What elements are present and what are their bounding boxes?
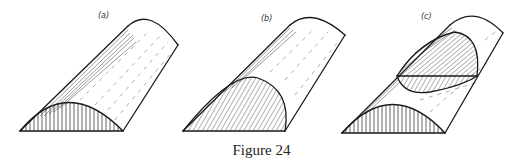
panel-a-label: (a) [98,11,109,20]
panel-b: (b) [183,14,345,131]
panel-a: (a) [20,11,178,131]
panel-c-label: (c) [421,12,432,21]
panel-b-label: (b) [261,14,272,23]
panel-c: (c) [342,12,503,133]
figure-caption: Figure 24 [0,142,523,159]
